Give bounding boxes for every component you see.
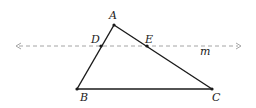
label-b: B [79, 91, 88, 104]
label-e: E [144, 33, 153, 46]
label-d: D [90, 33, 100, 46]
label-m: m [200, 45, 210, 58]
point-b-dot [75, 87, 78, 90]
segment-ca [114, 25, 212, 89]
label-c: C [212, 91, 221, 104]
triangle-diagram: A B C D E m [0, 0, 256, 108]
point-a-dot [112, 23, 115, 26]
label-a: A [108, 9, 117, 22]
point-d-dot [99, 44, 102, 47]
